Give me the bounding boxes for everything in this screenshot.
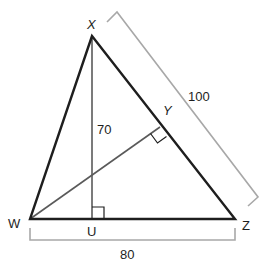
- vertex-label-x: X: [86, 17, 97, 32]
- vertex-label-y: Y: [163, 103, 173, 118]
- measure-label-xu: 70: [97, 122, 111, 137]
- vertex-label-z: Z: [242, 218, 250, 233]
- measure-label-wz: 80: [120, 247, 134, 261]
- right-angle-marker-y: [151, 134, 167, 144]
- bracket-wz: [30, 228, 235, 240]
- right-angle-marker-u: [92, 207, 104, 219]
- altitude-wy: [30, 127, 160, 219]
- vertex-label-w: W: [8, 216, 21, 231]
- vertex-label-u: U: [87, 224, 96, 239]
- measure-label-xz: 100: [188, 89, 210, 104]
- bracket-xz: [107, 12, 258, 206]
- triangle-diagram: X Y W Z U 70 100 80: [0, 0, 268, 261]
